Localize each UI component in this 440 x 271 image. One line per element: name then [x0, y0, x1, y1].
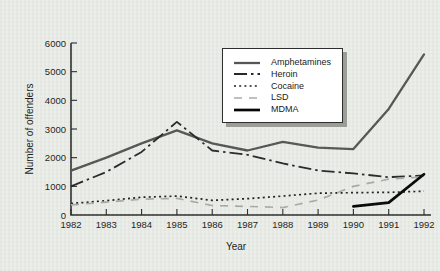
x-tick-label: 1983	[96, 219, 117, 230]
y-axis-title: Number of offenders	[24, 84, 35, 175]
legend-label: Amphetamines	[271, 57, 331, 68]
series-line-heroin	[71, 122, 424, 186]
y-tick-label: 1000	[45, 181, 66, 192]
legend-label: LSD	[271, 92, 289, 103]
x-tick-label: 1992	[413, 219, 434, 230]
x-tick-label: 1986	[202, 219, 223, 230]
legend-label: Cocaine	[271, 81, 304, 92]
cocaine-line-sample	[234, 81, 260, 91]
x-tick-label: 1988	[272, 219, 293, 230]
x-tick-label: 1991	[378, 219, 399, 230]
amphetamines-line-sample	[234, 58, 260, 68]
chart-figure: Number of offenders Year 010002000300040…	[0, 0, 440, 271]
y-tick-label: 3000	[45, 124, 66, 135]
legend-item-cocaine: Cocaine	[234, 81, 338, 92]
y-tick-label: 2000	[45, 152, 66, 163]
y-tick-label: 4000	[45, 95, 66, 106]
x-tick-label: 1990	[343, 219, 364, 230]
x-tick-label: 1989	[308, 219, 329, 230]
x-tick-label: 1982	[60, 219, 81, 230]
x-tick-label: 1984	[131, 219, 152, 230]
x-tick-label: 1987	[237, 219, 258, 230]
y-tick-label: 5000	[45, 66, 66, 77]
heroin-line-sample	[234, 69, 260, 79]
series-line-lsd	[71, 177, 424, 208]
x-axis-title: Year	[226, 241, 247, 252]
line-chart: Number of offenders Year 010002000300040…	[0, 0, 440, 271]
legend-item-amphetamines: Amphetamines	[234, 57, 338, 68]
series-line-cocaine	[71, 191, 424, 203]
legend-label: Heroin	[271, 69, 298, 80]
legend-item-heroin: Heroin	[234, 69, 338, 80]
mdma-line-sample	[234, 105, 260, 115]
legend-label: MDMA	[271, 104, 299, 115]
legend-item-mdma: MDMA	[234, 104, 338, 115]
legend: Amphetamines Heroin Cocaine LSD MDMA	[222, 48, 343, 123]
lsd-line-sample	[234, 93, 260, 103]
legend-item-lsd: LSD	[234, 92, 338, 103]
y-tick-label: 6000	[45, 38, 66, 49]
x-tick-label: 1985	[166, 219, 187, 230]
